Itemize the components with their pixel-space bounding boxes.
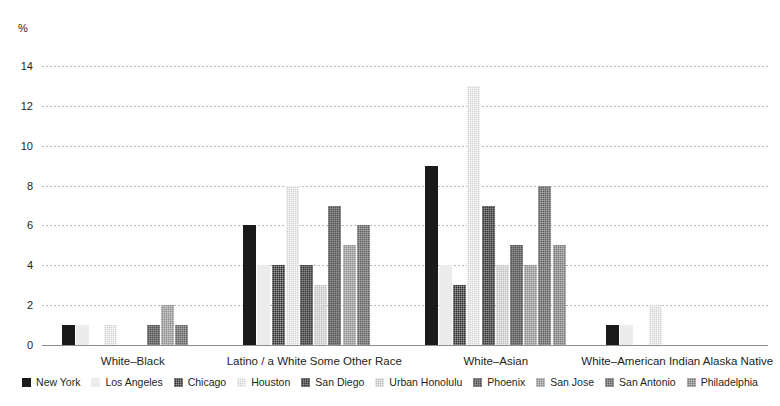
bar: [257, 265, 270, 345]
bar: [175, 325, 188, 345]
legend-swatch-icon: [536, 378, 545, 387]
y-axis-tick-label: 6: [27, 219, 33, 231]
bar: [620, 325, 633, 345]
y-axis-unit-label: %: [18, 22, 28, 34]
y-axis-tick-label: 8: [27, 180, 33, 192]
legend-swatch-icon: [375, 378, 384, 387]
legend-item[interactable]: San Jose: [536, 377, 594, 388]
legend-label: Chicago: [188, 377, 227, 388]
bar: [510, 245, 523, 345]
legend: New YorkLos AngelesChicagoHoustonSan Die…: [0, 377, 780, 388]
legend-label: Los Angeles: [105, 377, 162, 388]
bar: [425, 166, 438, 345]
bar: [76, 325, 89, 345]
bar: [300, 265, 313, 345]
bar: [286, 186, 299, 345]
bar: [606, 325, 619, 345]
bar-series-container: [42, 60, 768, 345]
bar: [357, 225, 370, 345]
y-axis-tick-label: 4: [27, 259, 33, 271]
legend-swatch-icon: [605, 378, 614, 387]
bar: [649, 305, 662, 345]
y-axis-tick-label: 0: [27, 339, 33, 351]
legend-item[interactable]: Houston: [237, 377, 290, 388]
bar: [62, 325, 75, 345]
legend-label: Phoenix: [487, 377, 525, 388]
legend-label: San Jose: [550, 377, 594, 388]
x-axis-category-label: White–Black: [101, 355, 165, 367]
axis-baseline: [42, 345, 768, 346]
legend-label: Houston: [251, 377, 290, 388]
bar: [161, 305, 174, 345]
y-axis-tick-label: 2: [27, 299, 33, 311]
legend-swatch-icon: [301, 378, 310, 387]
bar: [343, 245, 356, 345]
legend-swatch-icon: [687, 378, 696, 387]
bar: [147, 325, 160, 345]
bar: [524, 265, 537, 345]
legend-item[interactable]: New York: [22, 377, 80, 388]
legend-label: Urban Honolulu: [389, 377, 462, 388]
x-axis-labels: White–BlackLatino / a White Some Other R…: [42, 355, 768, 371]
legend-swatch-icon: [22, 378, 31, 387]
y-axis-tick-label: 14: [21, 60, 33, 72]
legend-label: New York: [36, 377, 80, 388]
legend-label: San Antonio: [619, 377, 676, 388]
legend-swatch-icon: [91, 378, 100, 387]
legend-item[interactable]: Urban Honolulu: [375, 377, 462, 388]
bar: [243, 225, 256, 345]
bar: [328, 206, 341, 346]
plot-area: 02468101214: [42, 60, 768, 351]
bar: [496, 265, 509, 345]
legend-item[interactable]: San Diego: [301, 377, 364, 388]
bar: [467, 86, 480, 345]
legend-item[interactable]: Phoenix: [473, 377, 525, 388]
bar: [104, 325, 117, 345]
bar: [314, 285, 327, 345]
legend-item[interactable]: Philadelphia: [687, 377, 758, 388]
y-axis-tick-label: 12: [21, 100, 33, 112]
y-axis-tick-label: 10: [21, 140, 33, 152]
x-axis-category-label: Latino / a White Some Other Race: [227, 355, 402, 367]
bar: [538, 186, 551, 345]
legend-swatch-icon: [174, 378, 183, 387]
bar: [439, 265, 452, 345]
bar-chart: % 02468101214 White–BlackLatino / a Whit…: [0, 0, 780, 406]
legend-swatch-icon: [473, 378, 482, 387]
bar: [553, 245, 566, 345]
x-axis-category-label: White–Asian: [463, 355, 528, 367]
bar: [272, 265, 285, 345]
legend-item[interactable]: Chicago: [174, 377, 227, 388]
x-axis-category-label: White–American Indian Alaska Native: [581, 355, 773, 367]
legend-label: Philadelphia: [701, 377, 758, 388]
legend-item[interactable]: San Antonio: [605, 377, 676, 388]
bar: [453, 285, 466, 345]
legend-swatch-icon: [237, 378, 246, 387]
legend-label: San Diego: [315, 377, 364, 388]
bar: [482, 206, 495, 346]
legend-item[interactable]: Los Angeles: [91, 377, 162, 388]
